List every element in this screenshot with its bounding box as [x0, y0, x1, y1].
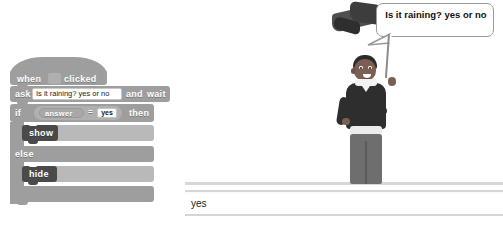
equals-operator-block[interactable]: answer = yes: [34, 106, 122, 120]
answer-reporter-label: answer: [45, 110, 73, 118]
else-label: else: [15, 150, 34, 159]
sprite-hip-hand: [342, 118, 350, 125]
answer-input[interactable]: yes: [185, 194, 503, 214]
when-label: when: [17, 75, 41, 84]
answer-input-bar: yes: [185, 190, 503, 216]
answer-reporter-block[interactable]: answer: [39, 108, 84, 118]
when-flag-clicked-block[interactable]: when clicked: [10, 57, 107, 85]
scripts-pane: when clicked ask Is it raining? yes or n…: [0, 0, 185, 227]
hide-block[interactable]: hide: [22, 166, 57, 182]
sprite-leg-seam: [365, 141, 367, 184]
equals-compare-input[interactable]: yes: [97, 108, 117, 118]
equals-sign-label: =: [88, 108, 93, 116]
show-block[interactable]: show: [22, 125, 58, 141]
if-else-footer-notch: [17, 202, 28, 205]
clicked-label: clicked: [64, 75, 97, 84]
show-block-notch: [28, 141, 38, 144]
sprite-pupil-left: [360, 67, 362, 69]
ask-and-wait-block[interactable]: ask Is it raining? yes or no and wait: [10, 86, 170, 102]
sprite-raised-hand: [388, 77, 396, 86]
show-label: show: [29, 129, 53, 138]
if-else-block-footer[interactable]: [10, 186, 154, 202]
ask-question-input[interactable]: Is it raining? yes or no: [32, 88, 122, 100]
if-else-block-header[interactable]: if answer = yes then: [10, 104, 154, 122]
show-block-topnotch: [28, 123, 38, 126]
sprite-ear: [351, 68, 356, 74]
sprite-pupil-right: [369, 67, 371, 69]
wait-label: wait: [147, 90, 166, 99]
partial-dark-sprite[interactable]: [332, 3, 382, 35]
if-label: if: [15, 109, 21, 118]
else-arm[interactable]: else: [10, 146, 154, 162]
then-label: then: [129, 109, 149, 118]
speech-bubble: Is it raining? yes or no: [376, 3, 494, 37]
hide-block-topnotch: [28, 164, 38, 167]
and-label: and: [126, 90, 143, 99]
speech-bubble-text: Is it raining? yes or no: [382, 9, 490, 20]
boy-sprite[interactable]: [336, 55, 406, 185]
ask-label: ask: [15, 90, 31, 99]
hide-label: hide: [29, 170, 49, 179]
hide-block-notch: [28, 182, 38, 185]
green-flag-icon: [48, 73, 61, 84]
